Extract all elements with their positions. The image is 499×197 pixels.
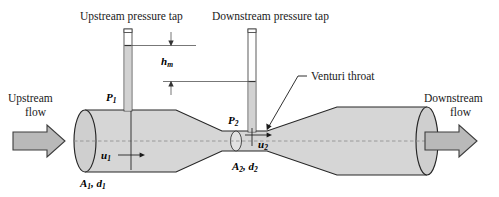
downstream-tap-label: Downstream pressure tap [212,10,329,23]
u1-subscript: 1 [107,154,111,163]
u2-subscript: 2 [263,143,268,152]
upstream-flow-label-line2: flow [25,106,47,118]
hm-subscript: m [167,60,173,69]
p1-label: P1 [106,91,116,105]
p1-subscript: 1 [113,96,117,105]
downstream-tube-rim [248,29,256,33]
upstream-tube-liquid-column [125,46,131,111]
area1-d-subscript: 1 [102,182,106,191]
p2-subscript: 2 [234,119,239,128]
upstream-flow-arrow [13,125,65,157]
upstream-pressure-tap-tube [124,29,132,111]
p2-label: P2 [228,114,239,128]
area2-d-subscript: 2 [253,165,258,174]
area1-label: A1, d1 [79,177,106,191]
hm-label: hm [161,55,173,69]
area2-label: A2, d2 [231,160,258,174]
upstream-tap-label: Upstream pressure tap [80,10,183,23]
upstream-tube-rim [124,29,132,33]
manometer-height-dimension: hm [132,32,250,95]
venturi-throat-leader-line [269,76,299,127]
downstream-flow-label-line2: flow [450,106,472,118]
downstream-flow-label-line1: Downstream [424,92,483,104]
downstream-pressure-tap-tube [248,29,256,132]
upstream-flow-label-line1: Upstream [8,92,53,105]
venturi-meter-diagram: hm Upstream pressure tap Downstream pres… [0,0,499,197]
venturi-throat-label: Venturi throat [311,70,375,82]
area1-a-base: A [79,177,87,189]
area2-a-base: A [231,160,239,172]
venturi-diagram-svg: hm Upstream pressure tap Downstream pres… [0,0,499,197]
downstream-tube-liquid-column [249,82,255,132]
